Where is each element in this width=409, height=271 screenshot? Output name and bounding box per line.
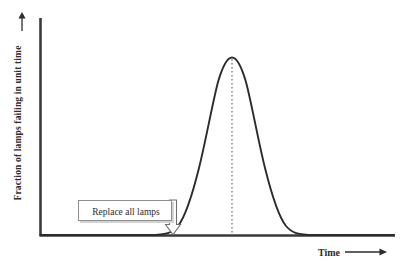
- replace-all-lamps-callout[interactable]: Replace all lamps: [78, 200, 172, 221]
- figure-canvas: Fraction of lamps failing in unit time R…: [0, 0, 409, 271]
- chart-plot-area: [0, 0, 409, 271]
- replace-all-lamps-label: Replace all lamps: [79, 201, 173, 222]
